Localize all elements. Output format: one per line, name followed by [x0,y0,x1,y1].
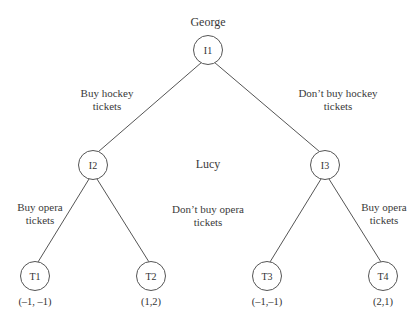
edge-i2-t2 [97,179,149,262]
terminal-node-t1: T1 [20,261,50,291]
branch-label-buy-opera-right: Buy opera tickets [354,201,414,227]
branch-label-line: Buy opera [10,201,70,214]
player-label-lucy: Lucy [178,157,238,172]
decision-node-i1: I1 [193,35,223,65]
edge-i3-t3 [270,179,321,262]
node-label: I2 [89,160,97,171]
decision-node-i2: I2 [78,150,108,180]
branch-label-line: tickets [163,216,253,229]
branch-label-line: tickets [283,100,393,113]
payoff-t1: (–1, –1) [5,296,65,307]
node-label: T2 [145,271,156,282]
decision-node-i3: I3 [310,150,340,180]
branch-label-buy-hockey: Buy hockey tickets [62,87,152,113]
branch-label-dont-buy-hockey: Don’t buy hockey tickets [283,87,393,113]
node-label: T3 [261,271,272,282]
player-label-george: George [178,15,238,30]
branch-label-line: Buy hockey [62,87,152,100]
branch-label-line: Don’t buy hockey [283,87,393,100]
node-label: T4 [377,271,388,282]
node-label: I1 [204,45,212,56]
branch-label-dont-buy-opera: Don’t buy opera tickets [163,203,253,229]
branch-label-buy-opera-left: Buy opera tickets [10,201,70,227]
branch-label-line: Buy opera [354,201,414,214]
terminal-node-t2: T2 [136,261,166,291]
branch-label-line: tickets [354,214,414,227]
terminal-node-t3: T3 [252,261,282,291]
node-label: I3 [321,160,329,171]
payoff-t2: (1,2) [121,296,181,307]
branch-label-line: Don’t buy opera [163,203,253,216]
terminal-node-t4: T4 [368,261,398,291]
branch-label-line: tickets [62,100,152,113]
payoff-t4: (2,1) [353,296,413,307]
payoff-t3: (–1,–1) [237,296,297,307]
node-label: T1 [29,271,40,282]
branch-label-line: tickets [10,214,70,227]
